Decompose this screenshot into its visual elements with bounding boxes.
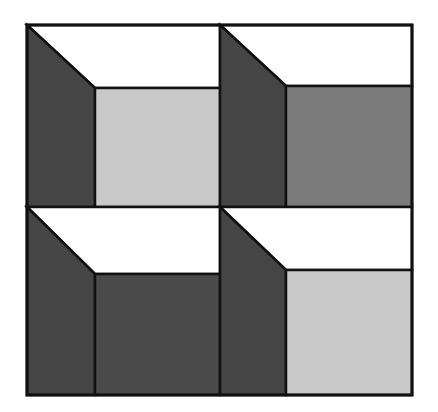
- cell-bottom-right: [220, 207, 412, 395]
- front-face: [286, 86, 412, 207]
- front-face: [95, 274, 220, 395]
- front-face: [95, 88, 220, 207]
- cell-top-left: [27, 25, 220, 207]
- box-grid-figure: [0, 0, 438, 412]
- cell-bottom-left: [27, 207, 220, 395]
- front-face: [286, 270, 412, 395]
- cell-top-right: [220, 25, 412, 207]
- figure-container: [0, 0, 438, 412]
